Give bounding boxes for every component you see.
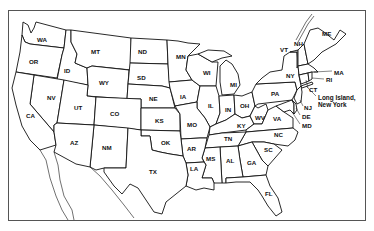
label-sd: SD [137, 74, 146, 81]
label-ri: RI [326, 76, 332, 83]
label-ne: NE [149, 95, 158, 102]
label-fl: FL [265, 190, 273, 197]
label-tn: TN [224, 135, 233, 142]
label-ms: MS [206, 155, 215, 162]
label-ny: NY [286, 72, 295, 79]
label-nj: NJ [304, 104, 312, 111]
label-al: AL [226, 157, 234, 164]
state-shape-mt[interactable] [71, 30, 131, 70]
label-la: LA [190, 165, 199, 172]
label-wy: WY [99, 79, 110, 86]
label-mn: MN [176, 53, 186, 60]
label-ct: CT [309, 86, 317, 93]
label-nh: NH [294, 40, 303, 47]
us-states-map: WA OR ID MT WY ND SD NE MN IA WI MI IL I… [0, 0, 374, 231]
label-ga: GA [247, 159, 257, 166]
label-pa: PA [271, 90, 280, 97]
state-shape-ri[interactable] [308, 72, 312, 81]
state-shapes [12, 22, 346, 216]
label-nc: NC [274, 131, 283, 138]
label-de: DE [302, 113, 311, 120]
label-mi: MI [230, 81, 237, 88]
label-mo: MO [187, 121, 197, 128]
label-ut: UT [74, 104, 82, 111]
label-ca: CA [26, 112, 35, 119]
label-az: AZ [70, 139, 78, 146]
label-sc: SC [264, 146, 273, 153]
label-ia: IA [180, 93, 187, 100]
label-vt: VT [280, 46, 288, 53]
label-or: OR [29, 58, 39, 65]
label-oh: OH [240, 102, 250, 109]
label-ks: KS [155, 117, 164, 124]
label-ma: MA [334, 69, 344, 76]
label-md: MD [302, 122, 312, 129]
label-ar: AR [187, 145, 196, 152]
label-va: VA [273, 115, 282, 122]
label-nd: ND [138, 48, 147, 55]
label-id: ID [64, 67, 71, 74]
label-mt: MT [91, 48, 100, 55]
label-nm: NM [102, 144, 112, 151]
label-nv: NV [47, 94, 56, 101]
state-shape-ct[interactable] [299, 73, 309, 84]
label-co: CO [110, 110, 119, 117]
label-in: IN [225, 106, 232, 113]
label-long-island-line2: New York [318, 101, 347, 108]
label-ky: KY [237, 122, 246, 129]
label-wi: WI [203, 69, 211, 76]
label-il: IL [208, 102, 214, 109]
label-wv: WV [255, 114, 266, 121]
label-tx: TX [149, 168, 158, 175]
label-wa: WA [37, 36, 47, 43]
state-shape-nd[interactable] [130, 38, 168, 64]
label-me: ME [322, 30, 331, 37]
state-shape-fl[interactable] [226, 175, 282, 216]
label-ok: OK [161, 139, 171, 146]
